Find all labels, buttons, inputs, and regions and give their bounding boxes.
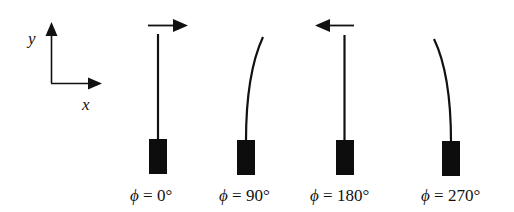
base-block xyxy=(442,141,460,176)
y-axis-label: y xyxy=(26,29,36,48)
beam-bent-left xyxy=(434,39,451,142)
base-block xyxy=(149,139,167,174)
base-block xyxy=(237,140,255,175)
panel-phi-270: ϕ = 270° xyxy=(421,39,480,205)
beam-bent-right xyxy=(246,37,263,141)
panel-phi-90: ϕ = 90° xyxy=(219,37,270,205)
panel-phi-0: ϕ = 0° xyxy=(130,19,188,205)
x-axis-label: x xyxy=(81,95,90,114)
phase-label: ϕ = 270° xyxy=(421,186,480,205)
phase-label: ϕ = 0° xyxy=(130,186,172,205)
cantilever-phase-diagram: y x ϕ = 0° ϕ = 90° ϕ = 180° ϕ = 270° xyxy=(0,0,514,212)
arrow-right-icon xyxy=(173,19,188,32)
phase-label: ϕ = 90° xyxy=(219,186,270,205)
arrow-left-icon xyxy=(315,19,330,32)
y-axis-arrowhead-icon xyxy=(46,22,58,36)
phase-label: ϕ = 180° xyxy=(310,186,369,205)
coordinate-axes: y x xyxy=(26,22,102,114)
base-block xyxy=(336,140,354,175)
x-axis-arrowhead-icon xyxy=(88,78,102,90)
panel-phi-180: ϕ = 180° xyxy=(310,19,369,205)
